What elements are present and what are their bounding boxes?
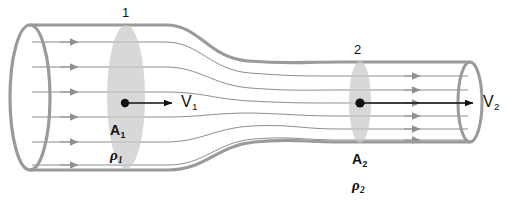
tube-bottom-wall bbox=[30, 140, 470, 170]
outlet-end-cap-ellipse bbox=[458, 62, 482, 142]
inlet-end-cap-ellipse bbox=[10, 25, 50, 170]
inlet-arrowhead-group bbox=[60, 42, 78, 165]
outlet-velocity-label: V2 bbox=[483, 94, 499, 110]
station-1-number: 1 bbox=[122, 6, 129, 19]
outlet-velocity-subscript: 2 bbox=[494, 101, 500, 112]
tube-wall-group bbox=[30, 25, 470, 170]
outlet-density-label: ρ2 bbox=[352, 178, 364, 193]
streamline bbox=[32, 67, 468, 90]
stream-tube-canvas bbox=[0, 0, 514, 206]
inlet-density-symbol: ρ bbox=[110, 147, 118, 163]
inlet-area-label: A1 bbox=[110, 123, 125, 137]
outlet-area-label: A2 bbox=[352, 152, 367, 166]
tube-top-wall bbox=[30, 25, 470, 63]
outlet-area-symbol: A bbox=[352, 151, 362, 167]
station-2-number: 2 bbox=[354, 43, 361, 56]
outlet-density-subscript: 2 bbox=[360, 185, 365, 195]
inlet-density-subscript: 1 bbox=[118, 155, 123, 165]
outlet-velocity-symbol: V bbox=[483, 93, 494, 110]
streamline bbox=[32, 92, 468, 103]
outlet-area-subscript: 2 bbox=[362, 159, 367, 169]
streamline bbox=[32, 113, 468, 117]
inlet-velocity-label: V1 bbox=[181, 94, 197, 110]
stream-tube-figure: 1 2 V1 V2 A1 ρ1 A2 ρ2 bbox=[0, 0, 514, 206]
inlet-velocity-symbol: V bbox=[181, 93, 192, 110]
inlet-density-label: ρ1 bbox=[110, 148, 122, 163]
inlet-velocity-subscript: 1 bbox=[192, 101, 198, 112]
inlet-area-subscript: 1 bbox=[120, 130, 125, 140]
outlet-density-symbol: ρ bbox=[352, 177, 360, 193]
streamline bbox=[32, 42, 468, 76]
inlet-area-symbol: A bbox=[110, 122, 120, 138]
outlet-arrowhead-group bbox=[404, 76, 420, 140]
